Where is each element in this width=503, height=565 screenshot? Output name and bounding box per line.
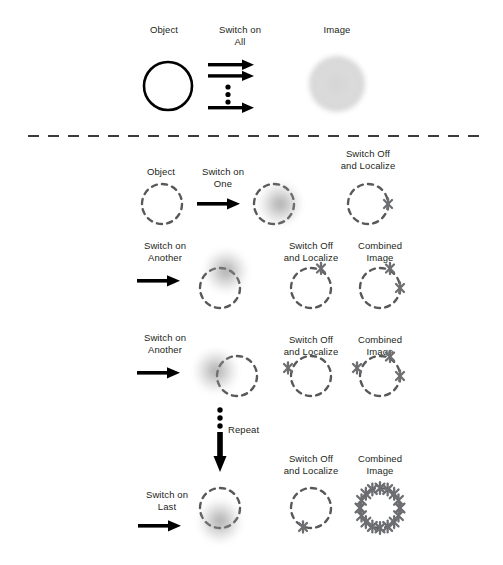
label-switch-on-last: Switch on Last bbox=[129, 489, 205, 512]
label-switch-off-localize-row1: Switch Off and Localize bbox=[328, 148, 408, 171]
label-repeat: Repeat bbox=[228, 424, 276, 436]
figure-canvas: Object Switch on All Image bbox=[0, 0, 503, 565]
label-switch-on-one: Switch on One bbox=[188, 166, 258, 189]
repeat-dot-3 bbox=[217, 423, 222, 428]
object-solid-circle bbox=[140, 58, 196, 114]
localization-marker bbox=[384, 199, 392, 210]
dashed-circle-combined-row2 bbox=[356, 264, 404, 312]
arrow-1 bbox=[208, 60, 254, 70]
localization-marker bbox=[284, 363, 292, 374]
combined-markers bbox=[386, 263, 404, 294]
label-object-top: Object bbox=[132, 24, 196, 36]
arrow-3 bbox=[208, 103, 254, 113]
label-switch-on-another-row3: Switch on Another bbox=[127, 332, 203, 355]
dashed-circle-combined-row4 bbox=[356, 484, 404, 532]
dashed-circle-localize-row2 bbox=[287, 264, 335, 312]
image-diffraction-blob bbox=[309, 56, 365, 112]
dashed-circle-combined-row3 bbox=[356, 352, 404, 400]
dashed-circle-object-row1 bbox=[138, 180, 186, 228]
dashed-circle-localize-row3 bbox=[287, 352, 335, 400]
dot-3 bbox=[225, 99, 230, 104]
arrow-switch-on-one bbox=[197, 197, 243, 211]
label-switch-off-localize-row4: Switch Off and Localize bbox=[271, 453, 351, 476]
dashed-circle-localize-row4 bbox=[287, 484, 335, 532]
label-combined-image-row4: Combined Image bbox=[340, 453, 420, 476]
blob-row3 bbox=[195, 350, 237, 392]
blob-row4 bbox=[199, 500, 241, 542]
combined-markers-full bbox=[356, 482, 405, 534]
label-image-top: Image bbox=[305, 24, 369, 36]
blob-row2 bbox=[205, 250, 247, 292]
dot-2 bbox=[225, 92, 230, 97]
localization-marker bbox=[317, 263, 325, 274]
label-switch-on-all: Switch on All bbox=[203, 24, 277, 47]
label-switch-off-localize-row2: Switch Off and Localize bbox=[271, 240, 351, 263]
section-divider bbox=[28, 133, 480, 139]
repeat-connector bbox=[214, 406, 240, 476]
repeat-dot-2 bbox=[217, 415, 222, 420]
arrow-switch-on-another-row3 bbox=[137, 366, 183, 380]
label-combined-image-row2: Combined Image bbox=[340, 240, 420, 263]
arrow-switch-on-last bbox=[138, 519, 184, 533]
label-object-row1: Object bbox=[133, 166, 189, 178]
arrow-2 bbox=[208, 71, 254, 81]
switch-on-all-arrows bbox=[208, 58, 270, 114]
dashed-circle-localize-row1 bbox=[344, 180, 392, 228]
dot-1 bbox=[225, 84, 230, 89]
blob-row1 bbox=[259, 183, 301, 225]
label-switch-on-another-row2: Switch on Another bbox=[127, 240, 203, 263]
repeat-dot-1 bbox=[217, 407, 222, 412]
arrow-switch-on-another-row2 bbox=[137, 274, 183, 288]
